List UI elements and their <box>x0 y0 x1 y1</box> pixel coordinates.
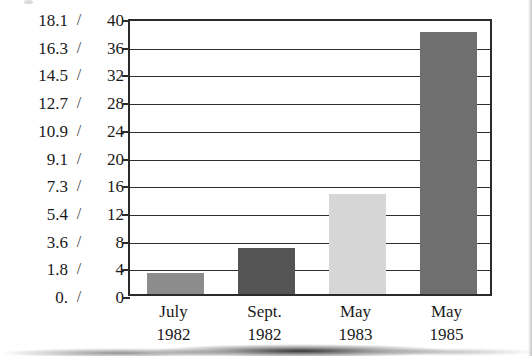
secondary-y-tick-label: 1.8 <box>6 261 68 278</box>
bar <box>147 273 203 294</box>
secondary-y-tick-label: 3.6 <box>6 234 68 251</box>
secondary-y-tick-label: 9.1 <box>6 151 68 168</box>
secondary-y-axis-tick-labels: 18.116.314.512.710.99.17.35.43.61.80. <box>6 0 68 356</box>
x-axis-category-label: May1983 <box>310 300 401 346</box>
secondary-y-tick-label: 16.3 <box>6 40 68 57</box>
x-axis-category-labels: July1982Sept.1982May1983May1985 <box>128 300 492 352</box>
secondary-y-tick-label: 18.1 <box>6 12 68 29</box>
axis-separator: / <box>72 95 86 112</box>
primary-y-tick-label: 0 <box>88 289 124 306</box>
axis-separator: / <box>72 151 86 168</box>
bar <box>238 248 294 294</box>
bar-series <box>130 21 490 294</box>
category-year: 1982 <box>128 323 219 346</box>
primary-y-tick-label: 40 <box>88 12 124 29</box>
category-year: 1982 <box>219 323 310 346</box>
x-axis-category-label: May1985 <box>401 300 492 346</box>
secondary-y-tick-label: 10.9 <box>6 123 68 140</box>
primary-y-tick-label: 20 <box>88 151 124 168</box>
axis-separator: / <box>72 67 86 84</box>
primary-y-tick-label: 36 <box>88 40 124 57</box>
primary-y-tick-label: 32 <box>88 67 124 84</box>
axis-separator: / <box>72 289 86 306</box>
category-month: May <box>401 300 492 323</box>
primary-y-axis-tick-labels: 4036322824201612840 <box>88 0 124 356</box>
axis-separator: / <box>72 261 86 278</box>
primary-y-tick-label: 12 <box>88 206 124 223</box>
axis-separator-column: /////////// <box>72 0 86 356</box>
category-year: 1983 <box>310 323 401 346</box>
axis-separator: / <box>72 206 86 223</box>
x-axis-category-label: July1982 <box>128 300 219 346</box>
x-axis-category-label: Sept.1982 <box>219 300 310 346</box>
primary-y-tick-label: 24 <box>88 123 124 140</box>
axis-separator: / <box>72 123 86 140</box>
plot-area <box>128 19 492 296</box>
secondary-y-tick-label: 14.5 <box>6 67 68 84</box>
primary-y-tick-label: 4 <box>88 261 124 278</box>
axis-separator: / <box>72 12 86 29</box>
category-month: Sept. <box>219 300 310 323</box>
category-month: May <box>310 300 401 323</box>
primary-y-tick-label: 28 <box>88 95 124 112</box>
axis-separator: / <box>72 178 86 195</box>
secondary-y-tick-label: 7.3 <box>6 178 68 195</box>
bar <box>420 32 476 294</box>
secondary-y-tick-label: 12.7 <box>6 95 68 112</box>
primary-y-tick-label: 16 <box>88 178 124 195</box>
axis-separator: / <box>72 40 86 57</box>
bar <box>329 194 385 294</box>
bar-chart-figure: 18.116.314.512.710.99.17.35.43.61.80. //… <box>0 0 532 356</box>
axis-separator: / <box>72 234 86 251</box>
secondary-y-tick-label: 5.4 <box>6 206 68 223</box>
secondary-y-tick-label: 0. <box>6 289 68 306</box>
category-year: 1985 <box>401 323 492 346</box>
primary-y-tick-label: 8 <box>88 234 124 251</box>
y-axis-tick-mark <box>122 297 130 299</box>
category-month: July <box>128 300 219 323</box>
